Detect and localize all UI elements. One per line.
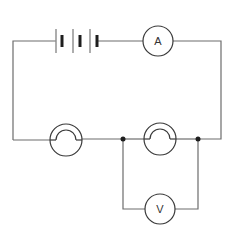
wire-left-top <box>13 41 56 140</box>
circuit-diagram: A V <box>0 0 231 234</box>
junction-left <box>121 137 126 142</box>
ammeter: A <box>143 26 173 56</box>
voltmeter-label: V <box>156 203 164 215</box>
wire-voltmeter-left <box>123 139 145 209</box>
lamp-1 <box>50 124 82 156</box>
voltmeter: V <box>145 194 175 224</box>
wire-voltmeter-right <box>175 139 198 209</box>
battery <box>56 29 97 53</box>
junction-right <box>196 137 201 142</box>
wires <box>13 41 221 209</box>
lamp-2 <box>144 123 176 155</box>
ammeter-label: A <box>154 35 162 47</box>
wire-right <box>173 41 221 139</box>
